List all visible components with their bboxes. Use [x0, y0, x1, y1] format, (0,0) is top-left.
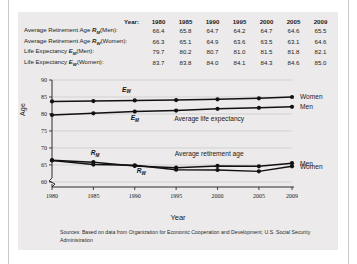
cell-value: 63.6 — [226, 36, 253, 47]
series-lines — [52, 97, 292, 171]
row-label-suffix: (Women): — [77, 58, 104, 65]
y-tick-label: 80 — [41, 111, 47, 117]
table-header-row: Year: 1980 1985 1990 1995 2000 2005 2009 — [24, 17, 334, 25]
table-row: Life Expectancy EM(Men): 79.7 80.2 80.7 … — [24, 47, 334, 58]
data-point — [174, 168, 178, 172]
cell-value: 84.0 — [199, 57, 226, 68]
series-line — [52, 97, 292, 101]
cell-value: 64.7 — [199, 25, 226, 36]
data-point — [215, 107, 219, 111]
table-header-year-label: Year: — [24, 17, 145, 25]
cell-value: 64.7 — [253, 25, 280, 36]
x-tick-label: 1995 — [170, 193, 182, 199]
cell-value: 83.7 — [145, 57, 172, 68]
row-label-retirement-men: Average Retirement Age RM(Men): — [24, 25, 145, 36]
curve-label-RW: RW — [137, 167, 147, 176]
cell-value: 82.1 — [307, 47, 334, 58]
cell-value: 83.8 — [172, 57, 199, 68]
page-rule-left — [8, 0, 9, 264]
side-label-men: Men — [300, 103, 313, 110]
table-header-year-3: 1995 — [226, 17, 253, 25]
source-note: Sources: Based on data from Organization… — [60, 228, 312, 244]
table-header-year-4: 2000 — [253, 17, 280, 25]
data-point — [215, 168, 219, 172]
page-rule-right — [348, 0, 349, 264]
table-row: Life Expectancy EW(Women): 83.7 83.8 84.… — [24, 57, 334, 68]
cell-value: 65.5 — [307, 25, 334, 36]
x-tick-label: 1985 — [87, 193, 99, 199]
cell-value: 63.1 — [280, 36, 307, 47]
data-point — [257, 106, 261, 110]
table-header-year-5: 2005 — [280, 17, 307, 25]
cell-value: 63.5 — [253, 36, 280, 47]
cell-value: 85.0 — [307, 57, 334, 68]
y-tick-label: 85 — [41, 94, 47, 100]
y-tick-label: 70 — [41, 145, 47, 151]
table-row: Average Retirement Age RW(Women): 66.3 6… — [24, 36, 334, 47]
curve-label-subscript: W — [127, 89, 132, 94]
cell-value: 64.6 — [280, 25, 307, 36]
y-tick-label: 65 — [41, 162, 47, 168]
row-label-retirement-women: Average Retirement Age RW(Women): — [24, 36, 145, 47]
table-body: Average Retirement Age RM(Men): 66.4 65.… — [24, 25, 334, 67]
data-point — [215, 164, 219, 168]
cell-value: 64.6 — [307, 36, 334, 47]
chart-annotations: Average life expectancyAverage retiremen… — [174, 115, 245, 158]
curve-label-subscript: M — [135, 118, 139, 123]
cell-value: 64.9 — [199, 36, 226, 47]
curve-label-subscript: W — [142, 171, 147, 176]
row-label-prefix: Average Retirement Age — [24, 37, 92, 44]
data-point — [257, 169, 261, 173]
data-point — [290, 164, 294, 168]
data-point — [91, 111, 95, 115]
data-point — [290, 95, 294, 99]
cell-value: 81.0 — [226, 47, 253, 58]
curve-label-EM: EM — [131, 114, 139, 123]
row-label-suffix: (Men): — [76, 47, 94, 54]
y-tick-label: 75 — [41, 128, 47, 134]
cell-value: 65.1 — [172, 36, 199, 47]
x-tick-label: 1980 — [46, 193, 58, 199]
cell-value: 64.2 — [226, 25, 253, 36]
chart-annotation: Average life expectancy — [174, 115, 245, 123]
side-label-women: Women — [300, 93, 323, 100]
data-point — [133, 98, 137, 102]
cell-value: 66.4 — [145, 25, 172, 36]
retirement-life-expectancy-table: Year: 1980 1985 1990 1995 2000 2005 2009… — [24, 17, 334, 68]
row-label-suffix: (Women): — [101, 37, 128, 44]
line-chart: 60657075808590 1980198519901995200020052… — [24, 74, 332, 204]
cell-value: 84.6 — [280, 57, 307, 68]
figure-panel: Year: 1980 1985 1990 1995 2000 2005 2009… — [18, 12, 338, 250]
cell-value: 84.1 — [226, 57, 253, 68]
cell-value: 84.3 — [253, 57, 280, 68]
row-label-life-men: Life Expectancy EM(Men): — [24, 47, 145, 58]
chart-annotation: Average retirement age — [175, 150, 244, 158]
cell-value: 81.8 — [280, 47, 307, 58]
data-table-container: Year: 1980 1985 1990 1995 2000 2005 2009… — [24, 17, 334, 68]
row-label-prefix: Life Expectancy — [24, 58, 69, 65]
table-header-year-6: 2009 — [307, 17, 334, 25]
cell-value: 80.7 — [199, 47, 226, 58]
cell-value: 81.5 — [253, 47, 280, 58]
table-row: Average Retirement Age RM(Men): 66.4 65.… — [24, 25, 334, 36]
cell-value: 66.3 — [145, 36, 172, 47]
data-point — [91, 162, 95, 166]
row-label-prefix: Life Expectancy — [24, 47, 69, 54]
cell-value: 79.7 — [145, 47, 172, 58]
y-tick-label: 90 — [41, 77, 47, 83]
x-tick-label: 2009 — [286, 193, 298, 199]
x-tick-label: 2005 — [253, 193, 265, 199]
table-header-year-0: 1980 — [145, 17, 172, 25]
data-point — [290, 105, 294, 109]
cell-value: 80.2 — [172, 47, 199, 58]
data-point — [174, 98, 178, 102]
series-side-labels: WomenMenMenWomen — [300, 93, 323, 169]
y-tick-label: 60 — [41, 179, 47, 185]
x-tick-label: 2000 — [212, 193, 224, 199]
curve-label-subscript: M — [96, 153, 100, 158]
data-point — [174, 108, 178, 112]
x-tick-label: 1990 — [129, 193, 141, 199]
data-point — [257, 164, 261, 168]
row-label-life-women: Life Expectancy EW(Women): — [24, 57, 145, 68]
chart-svg: 60657075808590 1980198519901995200020052… — [24, 74, 332, 204]
